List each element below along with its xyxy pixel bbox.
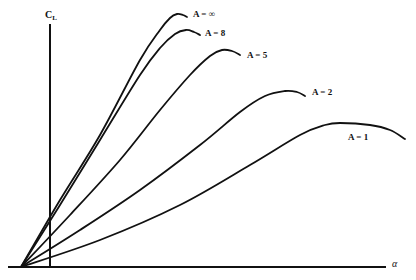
series-label: A = 5 bbox=[247, 51, 267, 60]
series-curve bbox=[21, 50, 240, 267]
y-axis-label: CL bbox=[45, 10, 57, 22]
y-axis-label-sub: L bbox=[52, 14, 57, 22]
series-label: A = 2 bbox=[312, 88, 332, 97]
series-label: A = 8 bbox=[205, 29, 225, 38]
x-axis-label: α bbox=[392, 259, 397, 269]
series-label: A = ∞ bbox=[193, 10, 215, 19]
series-label: A = 1 bbox=[348, 133, 368, 142]
series-curve bbox=[21, 30, 200, 267]
series-curve bbox=[21, 91, 305, 267]
series-curve bbox=[21, 123, 405, 267]
